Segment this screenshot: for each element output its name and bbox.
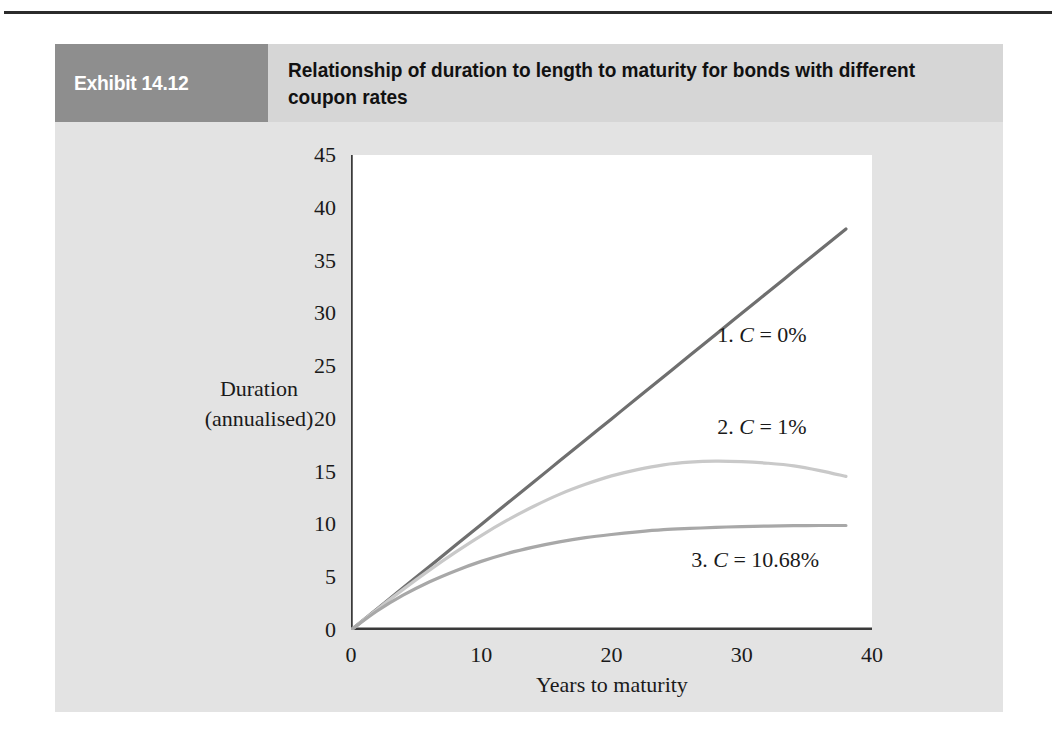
series-line-3 xyxy=(351,525,846,630)
y-tick-label: 40 xyxy=(292,197,336,219)
y-tick-label: 30 xyxy=(292,302,336,324)
series-annotation-index: 1. xyxy=(717,322,739,347)
exhibit-title-label: Relationship of duration to length to ma… xyxy=(288,56,932,110)
y-tick-label: 15 xyxy=(292,461,336,483)
x-tick-label: 10 xyxy=(451,644,511,666)
series-annotation-3: 3. C = 10.68% xyxy=(691,547,819,573)
series-annotation-1: 1. C = 0% xyxy=(717,322,806,348)
y-axis-title-line1: Duration xyxy=(184,374,334,404)
series-annotation-variable: C xyxy=(739,322,754,347)
series-annotation-2: 2. C = 1% xyxy=(717,414,806,440)
y-tick-label: 10 xyxy=(292,513,336,535)
x-axis-title: Years to maturity xyxy=(487,672,737,698)
y-tick-label: 25 xyxy=(292,355,336,377)
y-tick-label: 0 xyxy=(292,619,336,641)
y-tick-label: 5 xyxy=(292,566,336,588)
exhibit-number-block: Exhibit 14.12 xyxy=(55,44,268,122)
series-annotation-variable: C xyxy=(739,414,754,439)
y-tick-label: 20 xyxy=(292,408,336,430)
series-annotation-index: 2. xyxy=(717,414,739,439)
figure-page: Exhibit 14.12 Relationship of duration t… xyxy=(0,0,1058,754)
y-tick-label: 35 xyxy=(292,250,336,272)
exhibit-number-label: Exhibit 14.12 xyxy=(74,71,189,95)
series-annotation-variable: C xyxy=(713,547,728,572)
series-annotation-value: = 10.68% xyxy=(728,547,819,572)
x-tick-label: 20 xyxy=(582,644,642,666)
x-tick-label: 30 xyxy=(712,644,772,666)
exhibit-header: Exhibit 14.12 Relationship of duration t… xyxy=(55,44,1003,122)
series-annotation-value: = 0% xyxy=(754,322,807,347)
y-tick-label: 45 xyxy=(292,144,336,166)
series-line-2 xyxy=(351,461,846,630)
x-tick-label: 40 xyxy=(842,644,902,666)
series-annotation-index: 3. xyxy=(691,547,713,572)
exhibit-title-block: Relationship of duration to length to ma… xyxy=(268,44,1003,122)
series-annotation-value: = 1% xyxy=(754,414,807,439)
x-tick-label: 0 xyxy=(321,644,381,666)
top-divider-rule xyxy=(4,11,1052,14)
